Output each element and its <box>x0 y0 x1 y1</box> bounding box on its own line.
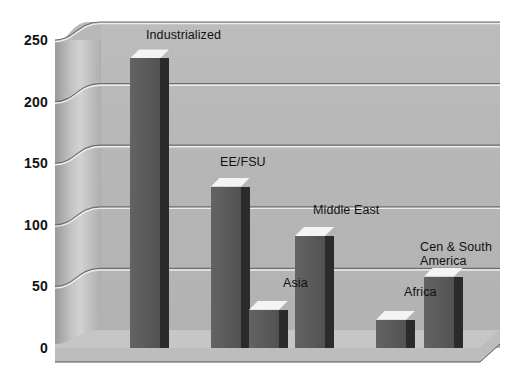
bar-right-face <box>279 310 288 348</box>
bar-category-label: Africa <box>404 285 437 299</box>
bar-front-face <box>295 236 325 348</box>
bar-front-face <box>211 187 241 348</box>
bar-front-face <box>130 58 160 348</box>
bar[interactable] <box>211 178 250 348</box>
chart-plot-area <box>0 0 520 373</box>
bar-top-face <box>130 49 169 58</box>
y-tick-label: 250 <box>24 33 48 47</box>
bar-top-face <box>424 268 463 277</box>
bar-category-label: Industrialized <box>146 28 221 42</box>
bar-category-label: Cen & South America <box>420 240 492 268</box>
bar-chart: IndustrializedEE/FSUAsiaMiddle EastAfric… <box>0 0 520 373</box>
bar-top-face <box>249 301 288 310</box>
y-tick-label: 150 <box>24 156 48 170</box>
bar-category-label: Middle East <box>313 203 379 217</box>
bar-front-face <box>376 320 406 348</box>
bar[interactable] <box>249 301 288 348</box>
y-tick-label: 200 <box>24 95 48 109</box>
bar[interactable] <box>376 311 415 348</box>
bar-top-face <box>211 178 250 187</box>
bar[interactable] <box>130 49 169 348</box>
bar-right-face <box>454 277 463 348</box>
bar-right-face <box>325 236 334 348</box>
bar-category-label: Asia <box>283 276 308 290</box>
bar-front-face <box>249 310 279 348</box>
bar-top-face <box>295 227 334 236</box>
bar[interactable] <box>424 268 463 348</box>
y-tick-label: 0 <box>40 341 48 355</box>
y-tick-label: 100 <box>24 218 48 232</box>
y-tick-label: 50 <box>32 279 48 293</box>
bar-right-face <box>406 320 415 348</box>
bar-top-face <box>376 311 415 320</box>
bar-category-label: EE/FSU <box>220 155 266 169</box>
bar-right-face <box>160 58 169 348</box>
